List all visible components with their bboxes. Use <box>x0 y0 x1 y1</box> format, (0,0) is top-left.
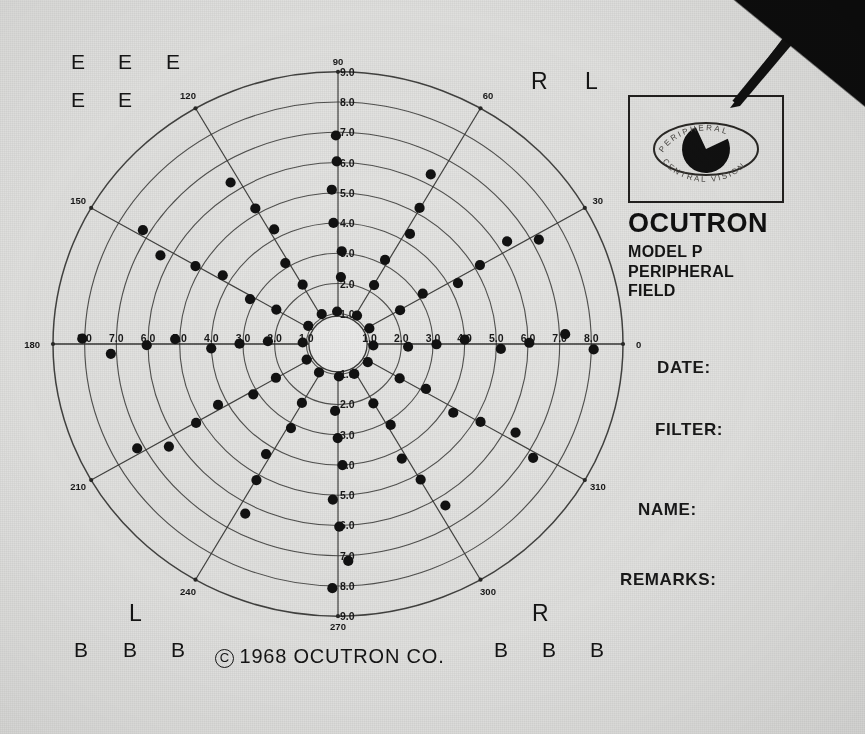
brand-model: MODEL P <box>628 242 788 262</box>
svg-text:7.0: 7.0 <box>340 126 355 138</box>
mark-l-bottom: L <box>129 600 142 627</box>
mark-e-2: E <box>118 50 132 74</box>
svg-text:120: 120 <box>180 90 196 101</box>
field-filter[interactable]: FILTER: <box>655 420 723 440</box>
brand-line3: FIELD <box>628 281 788 301</box>
field-date[interactable]: DATE: <box>657 358 711 378</box>
chart-page: 1.01.01.01.02.02.02.02.03.03.03.03.04.04… <box>0 0 865 734</box>
copyright-icon: C <box>215 649 234 668</box>
mark-e-5: E <box>118 88 132 112</box>
svg-text:9.0: 9.0 <box>340 66 355 78</box>
svg-text:8.0: 8.0 <box>340 580 355 592</box>
svg-text:6.0: 6.0 <box>340 157 355 169</box>
svg-text:60: 60 <box>483 90 494 101</box>
svg-text:150: 150 <box>70 195 86 206</box>
polar-grid <box>51 70 625 619</box>
svg-text:7.0: 7.0 <box>109 332 124 344</box>
svg-text:270: 270 <box>330 621 346 632</box>
svg-text:0: 0 <box>636 339 641 350</box>
svg-text:30: 30 <box>593 195 604 206</box>
mark-e-4: E <box>71 88 85 112</box>
svg-text:310: 310 <box>590 481 606 492</box>
mark-l-top: L <box>585 68 598 95</box>
svg-text:5.0: 5.0 <box>340 489 355 501</box>
svg-text:90: 90 <box>333 56 344 67</box>
svg-text:300: 300 <box>480 586 496 597</box>
mark-r-bottom: R <box>532 600 549 627</box>
svg-text:2.0: 2.0 <box>340 398 355 410</box>
svg-text:180: 180 <box>24 339 40 350</box>
svg-text:210: 210 <box>70 481 86 492</box>
mark-e-1: E <box>71 50 85 74</box>
scan-corner-shadow <box>730 0 865 110</box>
svg-text:4.0: 4.0 <box>204 332 219 344</box>
svg-text:4.0: 4.0 <box>340 217 355 229</box>
copyright-text: 1968 OCUTRON CO. <box>239 645 444 667</box>
mark-r-top: R <box>531 68 548 95</box>
field-name[interactable]: NAME: <box>638 500 697 520</box>
svg-text:5.0: 5.0 <box>340 187 355 199</box>
svg-text:8.0: 8.0 <box>340 96 355 108</box>
svg-text:5.0: 5.0 <box>489 332 504 344</box>
field-remarks[interactable]: REMARKS: <box>620 570 716 590</box>
svg-text:240: 240 <box>180 586 196 597</box>
brand-line2: PERIPHERAL <box>628 262 788 282</box>
mark-e-3: E <box>166 50 180 74</box>
svg-text:8.0: 8.0 <box>584 332 599 344</box>
brand-name: OCUTRON <box>628 210 788 237</box>
copyright-line: C1968 OCUTRON CO. <box>0 645 660 668</box>
